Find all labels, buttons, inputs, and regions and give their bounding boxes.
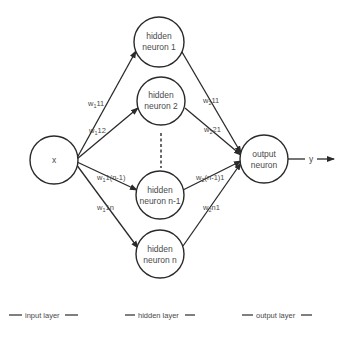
weight-label-w1-1n: w11n <box>96 203 114 213</box>
hidden-node-n-minus-1: hidden neuron n-1 <box>136 171 184 219</box>
legend-hidden-layer: hidden layer <box>125 311 195 320</box>
svg-text:hidden layer: hidden layer <box>138 311 179 320</box>
weight-label-w2-11: w211 <box>202 96 219 106</box>
edge-input-hidden-2 <box>77 108 138 159</box>
output-node: output neuron <box>240 135 288 183</box>
weight-label-w2-21: w221 <box>203 125 221 135</box>
weight-label-w1-11: w111 <box>87 99 104 109</box>
hidden-node-n-1-line2: neuron n-1 <box>139 196 180 206</box>
edge-input-hidden-1 <box>77 51 136 158</box>
hidden-node-1-line1: hidden <box>146 31 172 41</box>
hidden-node-2-line2: neuron 2 <box>144 101 178 111</box>
hidden-node-1-line2: neuron 1 <box>142 42 176 52</box>
hidden-node-2: hidden neuron 2 <box>137 77 185 125</box>
output-node-line2: neuron <box>251 160 278 170</box>
output-node-line1: output <box>252 149 276 159</box>
hidden-node-1: hidden neuron 1 <box>134 17 184 67</box>
weight-label-w1-1n-1: w11(n-1) <box>96 173 126 183</box>
output-y-label: y <box>309 154 314 164</box>
hidden-node-2-line1: hidden <box>148 90 174 100</box>
svg-text:output layer: output layer <box>256 311 296 320</box>
hidden-node-n-1-line1: hidden <box>147 185 173 195</box>
input-node: x <box>30 136 78 184</box>
weight-label-w1-12: w112 <box>88 126 106 136</box>
hidden-node-n: hidden neuron n <box>136 230 184 278</box>
svg-text:input layer: input layer <box>25 311 60 320</box>
neural-network-diagram: y x hidden neuron 1 hidden neuron 2 hidd… <box>0 0 347 337</box>
legend-input-layer: input layer <box>9 311 78 320</box>
weight-label-w2-n-1-1: w2(n-1)1 <box>195 173 225 183</box>
weight-label-w2-n1: w2n1 <box>202 203 220 213</box>
hidden-node-n-line2: neuron n <box>143 255 177 265</box>
legend-output-layer: output layer <box>242 311 312 320</box>
hidden-node-n-line1: hidden <box>147 244 173 254</box>
